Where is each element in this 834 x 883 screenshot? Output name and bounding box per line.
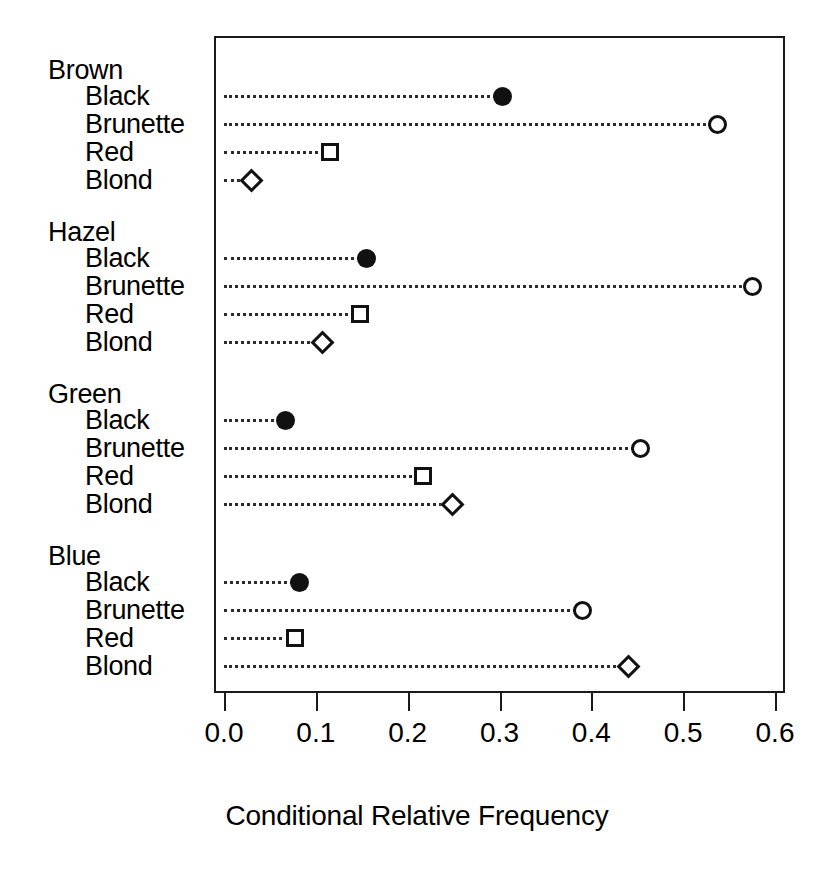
x-axis-title: Conditional Relative Frequency [0, 800, 834, 832]
open-circle-marker [743, 277, 762, 296]
row-label-red: Red [85, 462, 134, 490]
x-axis-tick-label: 0.4 [572, 717, 611, 749]
open-circle-marker [708, 115, 727, 134]
group-label-hazel: Hazel [48, 218, 116, 246]
leader-dots [224, 447, 634, 453]
row-label-black: Black [85, 82, 150, 110]
row-label-brunette: Brunette [85, 110, 185, 138]
plot-row: Red [0, 138, 834, 166]
row-label-brunette: Brunette [85, 434, 185, 462]
x-axis-tick [775, 693, 777, 711]
leader-dots [224, 503, 447, 509]
open-square-marker [321, 143, 339, 161]
filled-circle-marker [493, 87, 512, 106]
open-square-marker [351, 305, 369, 323]
open-circle-marker [631, 439, 650, 458]
row-label-brunette: Brunette [85, 596, 185, 624]
row-label-black: Black [85, 568, 150, 596]
open-diamond-marker [240, 168, 264, 192]
plot-row: Blond [0, 328, 834, 356]
x-axis: 0.00.10.20.30.40.50.6 [214, 693, 785, 717]
row-label-black: Black [85, 244, 150, 272]
row-label-red: Red [85, 138, 134, 166]
leader-dots [224, 419, 280, 425]
plot-row: Red [0, 624, 834, 652]
leader-dots [224, 123, 711, 129]
group-label-blue: Blue [48, 542, 101, 570]
x-axis-tick [683, 693, 685, 711]
plot-row: Blond [0, 166, 834, 194]
plot-row: Brunette [0, 110, 834, 138]
group-label-green: Green [48, 380, 122, 408]
x-axis-tick-label: 0.5 [664, 717, 703, 749]
leader-dots [224, 665, 622, 671]
x-axis-tick [224, 693, 226, 711]
open-diamond-marker [310, 330, 334, 354]
plot-row: Brunette [0, 272, 834, 300]
filled-circle-marker [276, 411, 295, 430]
leader-dots [224, 313, 354, 319]
row-label-red: Red [85, 300, 134, 328]
open-square-marker [414, 467, 432, 485]
row-label-blond: Blond [85, 328, 153, 356]
x-axis-tick [408, 693, 410, 711]
dot-plot-figure: BrownBlackBrunetteRedBlondHazelBlackBrun… [0, 0, 834, 883]
plot-row: Black [0, 406, 834, 434]
plot-row: Brunette [0, 434, 834, 462]
x-axis-tick-label: 0.1 [296, 717, 335, 749]
x-axis-tick [591, 693, 593, 711]
leader-dots [224, 637, 289, 643]
filled-circle-marker [290, 573, 309, 592]
x-axis-tick-label: 0.6 [756, 717, 795, 749]
row-label-blond: Blond [85, 490, 153, 518]
leader-dots [224, 257, 360, 263]
leader-dots [224, 475, 417, 481]
open-diamond-marker [616, 654, 640, 678]
group-label-brown: Brown [48, 56, 123, 84]
x-axis-tick-label: 0.0 [205, 717, 244, 749]
plot-row: Red [0, 462, 834, 490]
open-diamond-marker [441, 492, 465, 516]
leader-dots [224, 341, 316, 347]
x-axis-tick [500, 693, 502, 711]
plot-row: Blond [0, 490, 834, 518]
x-axis-tick-label: 0.2 [388, 717, 427, 749]
leader-dots [224, 609, 576, 615]
leader-dots [224, 285, 747, 291]
leader-dots [224, 581, 293, 587]
x-axis-tick-label: 0.3 [480, 717, 519, 749]
open-circle-marker [573, 601, 592, 620]
filled-circle-marker [357, 249, 376, 268]
plot-row: Black [0, 82, 834, 110]
leader-dots [224, 151, 324, 157]
plot-row: Red [0, 300, 834, 328]
row-label-blond: Blond [85, 652, 153, 680]
row-label-blond: Blond [85, 166, 153, 194]
row-label-brunette: Brunette [85, 272, 185, 300]
row-label-red: Red [85, 624, 134, 652]
row-label-black: Black [85, 406, 150, 434]
leader-dots [224, 95, 496, 101]
plot-row: Black [0, 244, 834, 272]
plot-row: Black [0, 568, 834, 596]
plot-row: Blond [0, 652, 834, 680]
x-axis-tick [316, 693, 318, 711]
plot-row: Brunette [0, 596, 834, 624]
open-square-marker [286, 629, 304, 647]
